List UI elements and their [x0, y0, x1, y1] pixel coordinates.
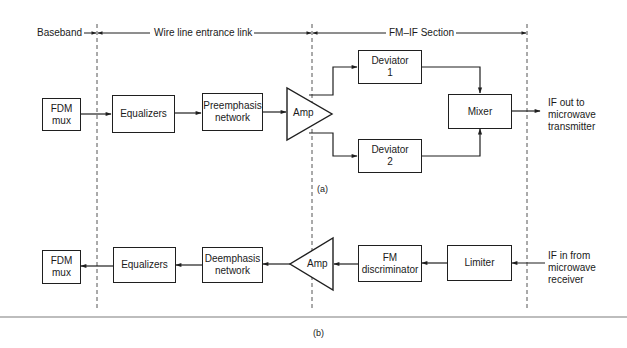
a-mixer-block: Mixer [448, 94, 512, 129]
a-caption: (a) [317, 184, 328, 194]
b-deemphasis-network-block: Deemphasis network [202, 247, 263, 283]
header-fm-if-section: FM–IF Section [387, 27, 456, 39]
header-wire-line-entrance-link: Wire line entrance link [152, 27, 254, 39]
b-if-in-label: IF in from microwave receiver [548, 250, 596, 286]
header-baseband: Baseband [35, 27, 84, 39]
b-amp-label: Amp [307, 258, 328, 270]
a-deviator-1-block: Deviator 1 [358, 50, 422, 84]
a-preemphasis-network-block: Preemphasis network [202, 93, 263, 131]
a-if-out-label: IF out to microwave transmitter [548, 97, 596, 133]
page-divider [0, 316, 627, 318]
b-equalizers-block: Equalizers [113, 247, 176, 283]
b-fm-discriminator-block: FM discriminator [358, 245, 422, 282]
b-caption: (b) [313, 328, 324, 338]
a-deviator-2-block: Deviator 2 [358, 139, 422, 173]
a-amp-label: Amp [293, 107, 314, 119]
a-fdm-mux-block: FDM mux [42, 98, 81, 131]
b-fdm-mux-block: FDM mux [42, 250, 81, 284]
diagram-wires [0, 0, 627, 348]
b-limiter-block: Limiter [447, 245, 512, 281]
a-equalizers-block: Equalizers [112, 95, 175, 133]
